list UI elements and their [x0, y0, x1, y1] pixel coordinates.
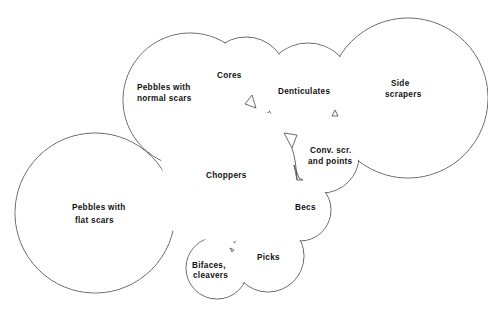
label-pebbles-normal-2: normal scars [137, 94, 192, 103]
label-denticulates: Denticulates [278, 87, 330, 96]
label-picks: Picks [257, 253, 280, 262]
label-pebbles-flat-1: Pebbles with [72, 203, 126, 212]
union-mask [16, 19, 488, 299]
label-side-scrapers-2: scrapers [385, 90, 422, 99]
tool-type-cluster-diagram: Pebbles with normal scars Cores Denticul… [0, 0, 488, 311]
label-becs: Becs [295, 203, 316, 212]
label-choppers: Choppers [206, 171, 247, 180]
label-conv-scr-2: and points [308, 157, 353, 166]
label-conv-scr-1: Conv. scr. [310, 146, 352, 155]
label-side-scrapers-1: Side [391, 79, 410, 88]
label-pebbles-normal-1: Pebbles with [137, 83, 191, 92]
label-cores: Cores [217, 71, 242, 80]
label-pebbles-flat-2: flat scars [75, 216, 114, 225]
label-bifaces-1: Bifaces, [192, 261, 226, 270]
label-bifaces-2: cleavers [193, 271, 228, 280]
